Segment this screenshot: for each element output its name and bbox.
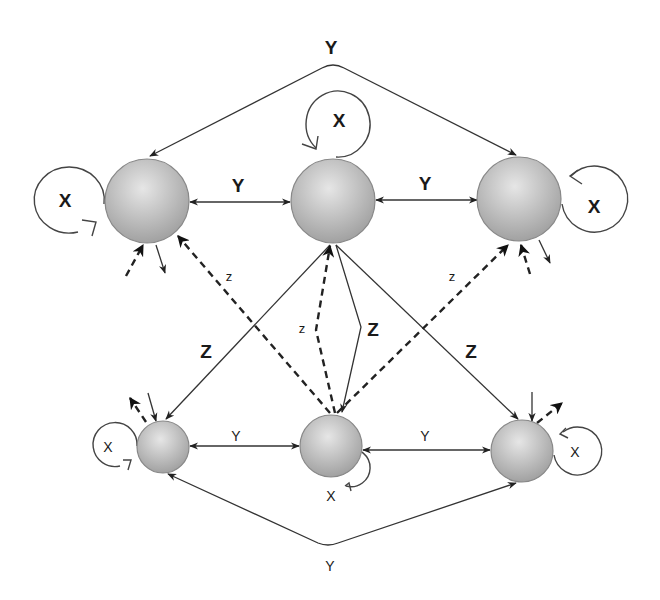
node-bottom-left <box>137 421 189 473</box>
label-loop-bottom-left: X <box>103 439 113 455</box>
label-loop-bottom-right: X <box>570 444 580 460</box>
edge-bottom-arc: Y <box>168 474 516 574</box>
label-bottom-center-right: Y <box>420 428 430 444</box>
node-bottom-center <box>300 415 362 477</box>
loop-top-left: X <box>34 167 104 236</box>
loop-top-center: X <box>302 91 370 157</box>
state-transition-diagram: Y Y Y Z Z Z z z z <box>0 0 660 600</box>
label-top-center-right: Y <box>419 173 432 194</box>
label-Z-left: Z <box>200 341 212 362</box>
loop-bottom-right: X <box>554 427 602 475</box>
node-top-right <box>477 157 561 241</box>
label-z-left: z <box>226 269 233 284</box>
label-top-left-center: Y <box>232 175 245 196</box>
loop-top-right: X <box>562 166 628 232</box>
external-arrows-top-left <box>126 245 165 276</box>
loop-bottom-left: X <box>93 423 137 470</box>
external-arrows-bottom-right <box>532 392 562 423</box>
label-z-right: z <box>449 269 456 284</box>
label-loop-top-center: X <box>333 110 346 131</box>
label-Z-right: Z <box>465 341 477 362</box>
node-top-left <box>105 159 189 243</box>
edge-Z-center: Z <box>336 245 379 412</box>
label-Z-center: Z <box>367 319 379 340</box>
label-z-center: z <box>299 321 306 336</box>
edge-top-arc: Y <box>150 37 516 156</box>
edge-z-center-dashed: z <box>299 246 335 413</box>
label-loop-top-right: X <box>588 196 601 217</box>
external-arrows-top-right <box>521 240 550 274</box>
edge-bottom-center-right: Y <box>363 428 490 450</box>
label-loop-bottom-center: X <box>326 488 336 504</box>
node-top-center <box>291 159 375 243</box>
edge-top-center-right: Y <box>376 173 477 200</box>
edge-bottom-left-center: Y <box>190 428 299 446</box>
node-bottom-right <box>491 420 553 482</box>
external-arrows-bottom-left <box>130 393 156 422</box>
edge-top-left-center: Y <box>190 175 290 202</box>
edge-z-left-dashed: z <box>178 236 330 413</box>
label-loop-top-left: X <box>59 190 72 211</box>
label-bottom-arc: Y <box>325 558 335 574</box>
edge-Z-left: Z <box>166 245 330 419</box>
edge-Z-right: Z <box>336 245 518 419</box>
label-bottom-left-center: Y <box>231 428 241 444</box>
label-top-arc: Y <box>325 37 338 58</box>
